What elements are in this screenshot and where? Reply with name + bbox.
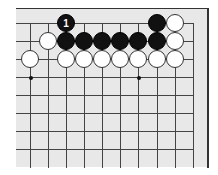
star-point [137, 76, 141, 80]
grid-line-horizontal [16, 149, 194, 150]
grid-line-horizontal [16, 95, 194, 96]
white-stone [148, 50, 166, 68]
star-point [29, 76, 33, 80]
board-top-frame [16, 8, 208, 9]
grid-line-horizontal [16, 77, 194, 78]
white-stone [75, 50, 93, 68]
black-stone [148, 14, 166, 32]
white-stone [21, 50, 39, 68]
white-stone [166, 32, 184, 50]
black-stone [148, 32, 166, 50]
white-stone [39, 32, 57, 50]
white-stone [166, 50, 184, 68]
board-right-frame [207, 8, 209, 168]
white-stone [93, 50, 111, 68]
white-stone [111, 50, 129, 68]
white-stone [166, 14, 184, 32]
grid-line-horizontal [16, 131, 194, 132]
black-stone: 1 [57, 14, 75, 32]
grid-line-horizontal [16, 113, 194, 114]
white-stone [129, 50, 147, 68]
black-stone [111, 32, 129, 50]
white-stone [57, 50, 75, 68]
black-stone [129, 32, 147, 50]
black-stone [75, 32, 93, 50]
black-stone [57, 32, 75, 50]
black-stone [93, 32, 111, 50]
